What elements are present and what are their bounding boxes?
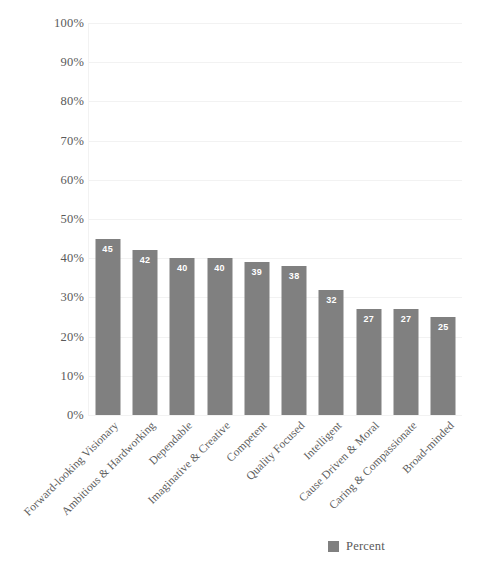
bar[interactable]: 27 xyxy=(356,309,381,415)
bar-slot: 27 xyxy=(387,23,424,415)
bar-slot: 25 xyxy=(425,23,462,415)
bar-data-label: 25 xyxy=(431,322,456,332)
bar[interactable]: 45 xyxy=(95,239,120,415)
y-axis-tick-label: 0% xyxy=(0,409,84,422)
y-axis-tick-label: 70% xyxy=(0,135,84,148)
y-axis-tick-label: 50% xyxy=(0,213,84,226)
y-axis-tick-labels: 100%90%80%70%60%50%40%30%20%10%0% xyxy=(0,23,84,415)
y-axis-tick-label: 80% xyxy=(0,95,84,108)
bar-data-label: 27 xyxy=(394,314,419,324)
bar[interactable]: 40 xyxy=(170,258,195,415)
bar[interactable]: 32 xyxy=(319,290,344,415)
gridline xyxy=(89,415,462,416)
bar-data-label: 40 xyxy=(170,263,195,273)
bar-data-label: 27 xyxy=(356,314,381,324)
bar[interactable]: 27 xyxy=(394,309,419,415)
x-axis-category-labels: Forward-looking VisionaryAmbitious & Har… xyxy=(89,417,462,527)
bar-slot: 39 xyxy=(238,23,275,415)
bar-data-label: 32 xyxy=(319,295,344,305)
bar-slot: 40 xyxy=(201,23,238,415)
chart-legend: Percent xyxy=(0,536,481,556)
bar-slot: 38 xyxy=(276,23,313,415)
y-axis-tick-label: 30% xyxy=(0,291,84,304)
bar-data-label: 38 xyxy=(282,271,307,281)
bar-series-percent: 45424040393832272725 xyxy=(89,23,462,415)
bar[interactable]: 38 xyxy=(282,266,307,415)
bar-data-label: 42 xyxy=(132,255,157,265)
bar-slot: 27 xyxy=(350,23,387,415)
bar[interactable]: 42 xyxy=(132,250,157,415)
bar[interactable]: 25 xyxy=(431,317,456,415)
bar-slot: 40 xyxy=(164,23,201,415)
bar-data-label: 39 xyxy=(244,267,269,277)
y-axis-tick-label: 100% xyxy=(0,17,84,30)
legend-item-percent[interactable]: Percent xyxy=(328,540,385,553)
y-axis-tick-label: 40% xyxy=(0,252,84,265)
legend-label: Percent xyxy=(346,540,385,553)
y-axis-tick-label: 20% xyxy=(0,331,84,344)
bar[interactable]: 40 xyxy=(207,258,232,415)
bar-chart: 100%90%80%70%60%50%40%30%20%10%0% 454240… xyxy=(0,0,481,562)
y-axis-tick-label: 10% xyxy=(0,370,84,383)
bar-slot: 32 xyxy=(313,23,350,415)
plot-area: 45424040393832272725 xyxy=(89,23,462,415)
bar-slot: 45 xyxy=(89,23,126,415)
legend-swatch-icon xyxy=(328,541,339,552)
y-axis-tick-label: 90% xyxy=(0,56,84,69)
bar-slot: 42 xyxy=(126,23,163,415)
y-axis-tick-label: 60% xyxy=(0,174,84,187)
bar-data-label: 45 xyxy=(95,244,120,254)
bar[interactable]: 39 xyxy=(244,262,269,415)
bar-data-label: 40 xyxy=(207,263,232,273)
